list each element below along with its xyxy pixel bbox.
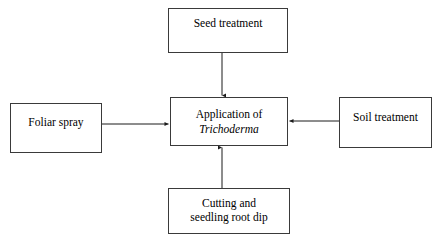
node-cutting-root-dip-line-2: seedling root dip [173,210,285,224]
node-seed-treatment-text: Seed treatment [173,16,283,30]
node-cutting-root-dip: Cutting and seedling root dip [168,188,290,234]
node-soil-treatment: Soil treatment [339,97,432,148]
node-seed-treatment-line-1: Seed treatment [173,16,283,30]
node-application-center-line-1: Application of [175,107,283,121]
node-application-center-text: Application of Trichoderma [175,107,283,136]
node-application-center-line-2-species: Trichoderma [175,122,283,136]
node-foliar-spray: Foliar spray [10,103,102,153]
node-foliar-spray-line-1: Foliar spray [15,115,97,129]
node-cutting-root-dip-text: Cutting and seedling root dip [173,196,285,225]
node-seed-treatment: Seed treatment [168,8,288,53]
node-soil-treatment-text: Soil treatment [344,110,427,124]
diagram-canvas: Seed treatment Application of Trichoderm… [0,0,442,239]
node-soil-treatment-line-1: Soil treatment [344,110,427,124]
node-foliar-spray-text: Foliar spray [15,115,97,129]
node-cutting-root-dip-line-1: Cutting and [173,196,285,210]
node-application-center: Application of Trichoderma [170,97,288,146]
